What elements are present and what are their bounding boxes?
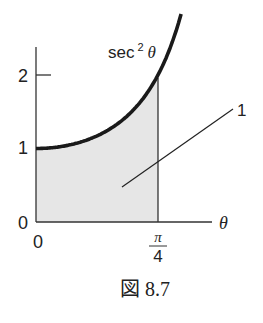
- y-tick-label-2: 2: [18, 66, 28, 86]
- x-tick-label-denominator: 4: [153, 247, 162, 266]
- region-area-label: 1: [237, 101, 246, 120]
- x-axis-label-theta: θ: [219, 213, 228, 233]
- x-tick-label-0: 0: [33, 232, 43, 252]
- sec-squared-curve: [36, 14, 181, 149]
- y-tick-label-0: 0: [18, 213, 28, 233]
- sec-squared-area-diagram: sec2θ 1 2 1 0 0 π 4 θ 図 8.7: [0, 0, 263, 323]
- x-tick-label-pi: π: [154, 229, 162, 245]
- y-tick-label-1: 1: [18, 138, 28, 158]
- figure-caption: 図 8.7: [120, 278, 170, 300]
- curve-label: sec2θ: [108, 41, 156, 62]
